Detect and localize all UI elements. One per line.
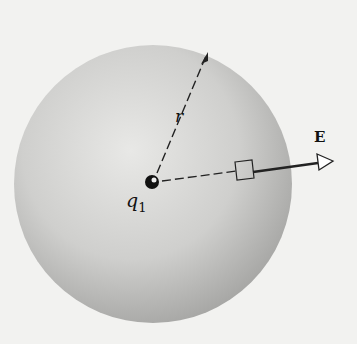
- gauss-diagram: q1 r E: [0, 0, 357, 344]
- field-arrowhead-icon: [317, 154, 333, 170]
- field-label: E: [314, 128, 325, 146]
- point-charge-icon: [145, 175, 159, 189]
- radius-label: r: [175, 106, 184, 126]
- charge-highlight: [152, 178, 157, 183]
